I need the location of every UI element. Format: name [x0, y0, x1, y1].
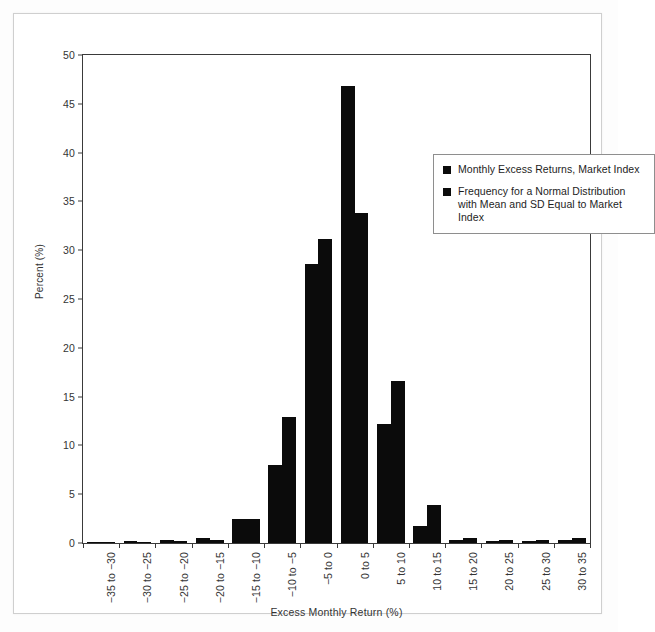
- bar-group: [87, 55, 115, 543]
- y-axis-tick-mark: [78, 152, 83, 153]
- x-axis-tick-label: −25 to −20: [178, 552, 190, 603]
- bar-series-market-index: [268, 465, 282, 543]
- bar-group: [522, 55, 550, 543]
- bar-series-market-index: [558, 540, 572, 543]
- bar-series-market-index: [449, 540, 463, 543]
- bar-group: [160, 55, 188, 543]
- legend-item: Monthly Excess Returns, Market Index: [443, 163, 645, 176]
- bar-group: [449, 55, 477, 543]
- x-axis-tick-label: −5 to 0: [322, 552, 334, 585]
- legend-swatch-icon: [443, 166, 451, 174]
- x-axis-tick-mark: [481, 543, 482, 548]
- bar-series-normal-distribution: [137, 542, 151, 543]
- x-axis-tick-mark: [337, 543, 338, 548]
- bar-series-normal-distribution: [391, 381, 405, 543]
- legend-item: Frequency for a Normal Distribution with…: [443, 185, 645, 224]
- y-axis-tick-mark: [78, 201, 83, 202]
- legend-item-label: Frequency for a Normal Distribution with…: [458, 185, 645, 224]
- bar-series-market-index: [341, 86, 355, 543]
- x-axis-tick-label: −30 to −25: [141, 552, 153, 603]
- bar-series-normal-distribution: [499, 540, 513, 543]
- bar-series-market-index: [486, 541, 500, 543]
- bar-series-normal-distribution: [572, 538, 586, 543]
- bar-series-market-index: [413, 526, 427, 543]
- y-axis-tick-mark: [78, 55, 83, 56]
- legend-item-label: Monthly Excess Returns, Market Index: [458, 163, 640, 176]
- x-axis-tick-label: −10 to −5: [286, 552, 298, 597]
- bar-series-normal-distribution: [463, 538, 477, 543]
- legend-swatch-icon: [443, 188, 451, 196]
- bar-series-market-index: [522, 541, 536, 543]
- bar-group: [377, 55, 405, 543]
- x-axis-tick-mark: [409, 543, 410, 548]
- bar-series-normal-distribution: [355, 213, 369, 543]
- bar-series-normal-distribution: [536, 540, 550, 543]
- x-axis-tick-label: −35 to −30: [105, 552, 117, 603]
- y-axis-tick-mark: [78, 396, 83, 397]
- x-axis-tick-label: 20 to 25: [503, 552, 515, 591]
- plot-area: 05101520253035404550 −35 to −30−30 to −2…: [82, 54, 591, 544]
- bar-series-normal-distribution: [282, 417, 296, 543]
- x-axis-tick-mark: [228, 543, 229, 548]
- x-axis-tick-label: −20 to −15: [214, 552, 226, 603]
- x-axis-tick-mark: [518, 543, 519, 548]
- figure-frame: Percent (%) 05101520253035404550 −35 to …: [13, 13, 602, 614]
- x-axis-tick-mark: [300, 543, 301, 548]
- bar-group: [486, 55, 514, 543]
- y-axis-tick-mark: [78, 299, 83, 300]
- x-axis-tick-mark: [264, 543, 265, 548]
- x-axis-tick-label: 10 to 15: [431, 552, 443, 591]
- y-axis-tick-mark: [78, 347, 83, 348]
- chart-legend: Monthly Excess Returns, Market Index Fre…: [433, 154, 655, 234]
- x-axis-tick-mark: [192, 543, 193, 548]
- bar-series-market-index: [87, 542, 101, 543]
- bar-series-market-index: [124, 541, 138, 543]
- bar-group: [196, 55, 224, 543]
- x-axis-tick-mark: [119, 543, 120, 548]
- bar-series-market-index: [232, 519, 246, 543]
- y-axis-tick-mark: [78, 250, 83, 251]
- bar-series-market-index: [377, 424, 391, 543]
- x-axis-title: Excess Monthly Return (%): [82, 606, 591, 618]
- x-axis-tick-label: 30 to 35: [576, 552, 588, 591]
- x-axis-tick-label: −15 to −10: [250, 552, 262, 603]
- x-axis-tick-mark: [155, 543, 156, 548]
- bar-series-market-index: [160, 540, 174, 543]
- bar-group: [341, 55, 369, 543]
- x-axis-tick-mark: [445, 543, 446, 548]
- bar-series-normal-distribution: [427, 505, 441, 543]
- bar-group: [232, 55, 260, 543]
- y-axis-title: Percent (%): [34, 244, 45, 299]
- bar-group: [413, 55, 441, 543]
- bar-group: [558, 55, 586, 543]
- x-axis-tick-label: 15 to 20: [467, 552, 479, 591]
- y-axis-tick-mark: [78, 494, 83, 495]
- x-axis-tick-mark: [554, 543, 555, 548]
- x-axis-tick-label: 25 to 30: [540, 552, 552, 591]
- y-axis-tick-mark: [78, 103, 83, 104]
- x-axis-tick-label: 0 to 5: [359, 552, 371, 579]
- bar-series-normal-distribution: [174, 541, 188, 543]
- x-axis-tick-mark: [83, 543, 84, 548]
- bar-series-market-index: [305, 264, 319, 543]
- x-axis-tick-mark: [590, 543, 591, 548]
- bar-series-normal-distribution: [246, 519, 260, 543]
- bar-group: [124, 55, 152, 543]
- bar-group: [305, 55, 333, 543]
- bar-group: [268, 55, 296, 543]
- x-axis-tick-mark: [373, 543, 374, 548]
- bar-series-normal-distribution: [101, 542, 115, 543]
- bar-series-normal-distribution: [210, 540, 224, 543]
- x-axis-tick-label: 5 to 10: [395, 552, 407, 585]
- bar-series-market-index: [196, 538, 210, 543]
- y-axis-tick-mark: [78, 445, 83, 446]
- bar-series-normal-distribution: [318, 239, 332, 543]
